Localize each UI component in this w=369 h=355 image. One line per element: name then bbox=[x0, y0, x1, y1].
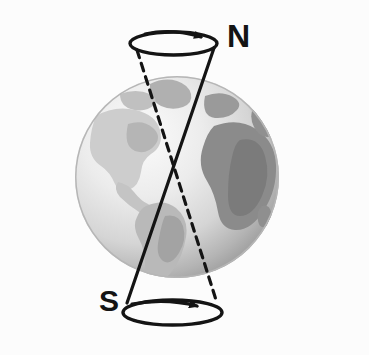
precession-diagram: N S bbox=[0, 0, 369, 355]
north-precession-circle bbox=[130, 32, 217, 55]
north-pole-label: N bbox=[227, 18, 250, 54]
south-pole-label: S bbox=[99, 284, 119, 317]
diagram-canvas: N S bbox=[0, 0, 369, 355]
